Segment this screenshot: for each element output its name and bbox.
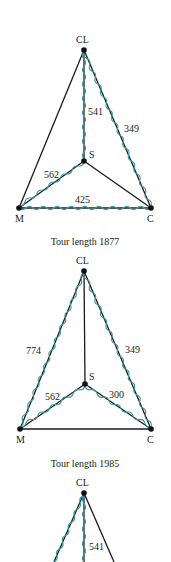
node-label-cl: CL bbox=[76, 477, 89, 488]
node-label-m: M bbox=[15, 213, 24, 224]
node-cl bbox=[81, 47, 87, 53]
node-label-s: S bbox=[89, 149, 95, 160]
edge-label-cl-m: 774 bbox=[26, 345, 41, 356]
edge-label-s-c: 300 bbox=[109, 389, 124, 400]
node-m bbox=[16, 205, 22, 211]
caption-1: Tour length 1877 bbox=[51, 236, 120, 247]
edge-label-cl-s: 541 bbox=[89, 541, 104, 552]
edge-label-m-s: 562 bbox=[44, 169, 59, 180]
node-label-c: C bbox=[147, 434, 154, 445]
figure-1: CL S M C 541 349 562 425 Tour length 187… bbox=[15, 34, 154, 247]
node-s bbox=[81, 158, 87, 164]
node-s bbox=[82, 381, 88, 387]
node-label-m: M bbox=[16, 434, 25, 445]
edge-cl-s bbox=[84, 271, 85, 384]
edge-cl-m bbox=[54, 493, 84, 562]
node-m bbox=[17, 426, 23, 432]
node-c bbox=[148, 205, 154, 211]
edge-label-m-s: 562 bbox=[45, 391, 60, 402]
node-label-s: S bbox=[89, 371, 95, 382]
edge-label-cl-c: 349 bbox=[125, 344, 140, 355]
node-label-cl: CL bbox=[76, 255, 89, 266]
node-cl bbox=[81, 268, 87, 274]
figure-2: CL S M C 774 349 562 300 Tour length 198… bbox=[16, 255, 154, 469]
edge-label-cl-s: 541 bbox=[88, 106, 103, 117]
node-label-cl: CL bbox=[76, 34, 89, 45]
edge-label-cl-c: 349 bbox=[124, 123, 139, 134]
node-c bbox=[148, 426, 154, 432]
node-label-c: C bbox=[147, 213, 154, 224]
node-cl bbox=[81, 490, 87, 496]
edge-label-m-c: 425 bbox=[75, 194, 90, 205]
caption-2: Tour length 1985 bbox=[51, 458, 120, 469]
figure-3: CL 541 bbox=[54, 477, 114, 562]
tour-diagrams: CL S M C 541 349 562 425 Tour length 187… bbox=[0, 0, 171, 562]
